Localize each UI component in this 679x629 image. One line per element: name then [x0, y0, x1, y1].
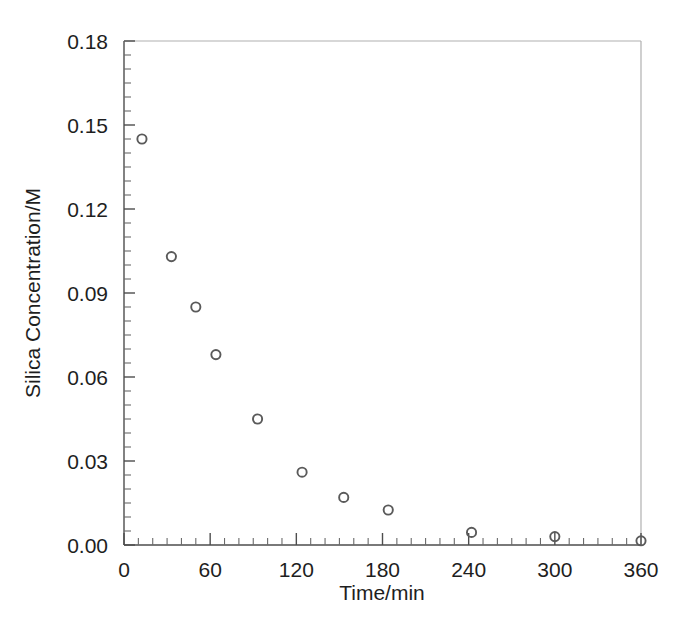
- x-tick-label: 300: [537, 558, 572, 581]
- y-tick-label: 0.00: [67, 534, 108, 557]
- plot-frame: [124, 41, 641, 545]
- x-tick-label: 240: [451, 558, 486, 581]
- data-point-markers: [137, 134, 645, 545]
- x-tick-label: 120: [279, 558, 314, 581]
- y-tick-label: 0.03: [67, 450, 108, 473]
- data-point-marker: [167, 252, 176, 261]
- y-tick-label: 0.09: [67, 282, 108, 305]
- data-point-marker: [339, 493, 348, 502]
- x-tick-label: 0: [118, 558, 130, 581]
- data-point-marker: [253, 414, 262, 423]
- y-tick-label: 0.15: [67, 114, 108, 137]
- x-tick-label: 60: [198, 558, 221, 581]
- chart-figure: 0.000.030.060.090.120.150.18 06012018024…: [0, 0, 679, 629]
- y-tick-label: 0.18: [67, 30, 108, 53]
- data-point-marker: [467, 528, 476, 537]
- y-axis-ticks: [124, 41, 135, 545]
- y-axis-title: Silica Concentration/M: [21, 188, 44, 398]
- y-tick-label: 0.12: [67, 198, 108, 221]
- x-axis-ticks: [124, 533, 641, 545]
- data-point-marker: [137, 134, 146, 143]
- x-tick-label: 360: [623, 558, 658, 581]
- data-point-marker: [297, 468, 306, 477]
- y-tick-label: 0.06: [67, 366, 108, 389]
- x-axis-tick-labels: 060120180240300360: [118, 558, 658, 581]
- x-tick-label: 180: [365, 558, 400, 581]
- y-axis-tick-labels: 0.000.030.060.090.120.150.18: [67, 30, 108, 557]
- x-axis-title: Time/min: [339, 581, 425, 604]
- data-point-marker: [191, 302, 200, 311]
- data-point-marker: [211, 350, 220, 359]
- scatter-plot: 0.000.030.060.090.120.150.18 06012018024…: [0, 0, 679, 629]
- data-point-marker: [384, 505, 393, 514]
